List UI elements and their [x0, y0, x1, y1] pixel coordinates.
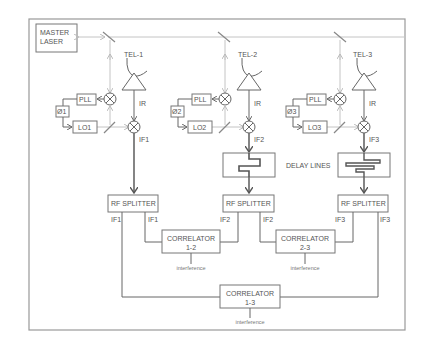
interferometer-diagram: MASTER LASER TEL-1 IR PLL	[0, 0, 433, 353]
correlator-1-2-pair: 1-2	[186, 244, 196, 251]
telescope-2-icon	[237, 73, 261, 90]
mixer-3-lower-icon	[358, 121, 370, 133]
correlator-2-3: CORRELATOR 2-3 interference	[276, 230, 335, 271]
pll-1-label: PLL	[79, 96, 92, 103]
telescope-1-label: TEL-1	[124, 51, 143, 58]
telescope-1-dish-icon	[127, 58, 147, 76]
correlator-1-3-title: CORRELATOR	[226, 290, 274, 297]
mixer-2-upper-icon	[219, 93, 231, 105]
mixer-2-lower-icon	[243, 121, 255, 133]
if-2-label: IF2	[254, 136, 264, 143]
telescope-1-chain: TEL-1 IR PLL Ø1 LO1 IF1	[56, 40, 149, 193]
correlator-2-3-pair: 2-3	[300, 244, 310, 251]
correlator-1-3: CORRELATOR 1-3 interference	[220, 285, 280, 325]
mixer-1-lower-icon	[128, 121, 140, 133]
master-laser-label-2: LASER	[40, 38, 63, 45]
if-1-label: IF1	[139, 136, 149, 143]
rf-splitter-2: RF SPLITTER IF2 IF2	[220, 195, 274, 223]
mixer-1-upper-icon	[104, 93, 116, 105]
rf-splitter-3-out-right: IF3	[380, 216, 390, 223]
phase-1-label: Ø1	[57, 108, 66, 115]
telescope-1-ir-label: IR	[139, 100, 146, 107]
correlator-1-2-output: interference	[176, 265, 205, 271]
correlator-1-2: CORRELATOR 1-2 interference	[162, 230, 220, 271]
rf-splitter-1-label: RF SPLITTER	[111, 200, 156, 207]
telescope-2-label: TEL-2	[238, 51, 257, 58]
if-3-label: IF3	[369, 136, 379, 143]
telescope-3-ir-label: IR	[369, 100, 376, 107]
mixer-3-upper-icon	[334, 93, 346, 105]
rf-splitter-1: RF SPLITTER IF1 IF1	[108, 195, 158, 223]
correlator-1-3-output: interference	[235, 319, 264, 325]
telescope-2-ir-label: IR	[254, 100, 261, 107]
rf-splitter-1-out-right: IF1	[148, 216, 158, 223]
telescope-3-dish-icon	[357, 58, 377, 76]
correlator-2-3-output: interference	[290, 265, 319, 271]
telescope-2-chain: TEL-2 IR PLL Ø2 LO2 IF2	[171, 40, 275, 193]
correlator-2-3-title: CORRELATOR	[281, 235, 329, 242]
pll-3-label: PLL	[309, 96, 322, 103]
rf-splitter-1-out-left: IF1	[111, 216, 121, 223]
telescope-2-dish-icon	[242, 58, 262, 76]
telescope-3-label: TEL-3	[353, 51, 372, 58]
delay-lines-label: DELAY LINES	[286, 162, 331, 169]
rf-splitter-2-out-left: IF2	[220, 216, 230, 223]
pll-2-label: PLL	[194, 96, 207, 103]
rf-splitter-3-label: RF SPLITTER	[341, 200, 386, 207]
correlator-1-3-pair: 1-3	[245, 299, 255, 306]
correlator-wiring	[122, 212, 378, 297]
lo-2-label: LO2	[193, 124, 206, 131]
master-laser-label-1: MASTER	[40, 29, 69, 36]
telescope-3-icon	[352, 73, 376, 90]
telescope-3-chain: TEL-3 IR PLL Ø3 LO3 IF3	[286, 40, 390, 193]
optical-distribution	[79, 32, 405, 42]
rf-splitter-3: RF SPLITTER IF3 IF3	[335, 195, 390, 223]
phase-3-label: Ø3	[287, 108, 296, 115]
rf-splitter-2-out-right: IF2	[263, 216, 273, 223]
lo-3-label: LO3	[308, 124, 321, 131]
lo-1-label: LO1	[78, 124, 91, 131]
master-laser-block: MASTER LASER	[36, 24, 77, 52]
rf-splitter-2-label: RF SPLITTER	[226, 200, 271, 207]
correlator-1-2-title: CORRELATOR	[167, 235, 215, 242]
phase-2-label: Ø2	[172, 108, 181, 115]
rf-splitter-3-out-left: IF3	[335, 216, 345, 223]
telescope-1-icon	[122, 73, 146, 90]
